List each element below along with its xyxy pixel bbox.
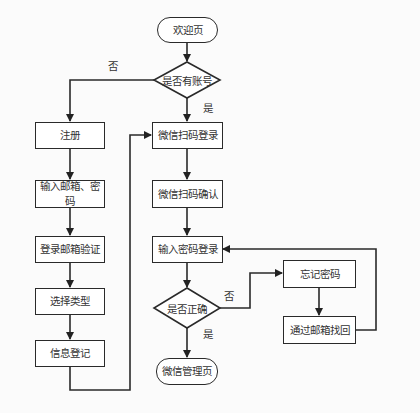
node-info-register: 信息登记: [35, 340, 105, 367]
node-welcome: 欢迎页: [157, 17, 218, 43]
node-wechat-scan-confirm: 微信扫码确认: [152, 180, 223, 208]
edge-label-is-correct-no: 否: [224, 288, 234, 303]
node-wechat-admin-page: 微信管理页: [156, 358, 218, 385]
edge-label-has-account-no: 否: [108, 58, 118, 73]
node-input-email-password: 输入邮箱、密码: [35, 180, 105, 208]
node-select-type: 选择类型: [35, 288, 105, 315]
node-forgot-password: 忘记密码: [283, 260, 356, 288]
node-wechat-scan-login: 微信扫码登录: [152, 122, 223, 149]
node-email-verify: 登录邮箱验证: [35, 236, 105, 263]
node-register: 注册: [35, 122, 105, 149]
node-recover-by-email: 通过邮箱找回: [283, 316, 356, 344]
edge-label-is-correct-yes: 是: [203, 326, 213, 341]
decision-has-account: 是否有账号: [154, 72, 220, 88]
decision-is-correct: 是否正确: [154, 300, 220, 316]
edge-label-has-account-yes: 是: [203, 100, 213, 115]
flowchart-canvas: 欢迎页 是否有账号 否 是 注册 输入邮箱、密码 登录邮箱验证 选择类型 信息登…: [0, 0, 420, 413]
node-input-password-login: 输入密码登录: [152, 236, 223, 263]
